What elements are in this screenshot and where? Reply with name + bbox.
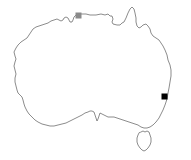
australia-map-svg xyxy=(0,0,191,160)
coastline-tasmania xyxy=(137,131,151,151)
marker-east-square[interactable] xyxy=(162,94,168,100)
marker-north-square[interactable] xyxy=(76,13,82,19)
coastline-mainland-australia xyxy=(14,7,171,128)
map-figure xyxy=(0,0,191,160)
